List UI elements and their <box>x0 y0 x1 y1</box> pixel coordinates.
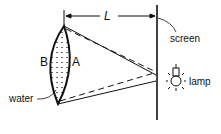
screen-label: screen <box>170 34 200 44</box>
lens-diagram: L B A water screen lamp <box>0 0 221 134</box>
lamp-label: lamp <box>189 77 211 87</box>
length-label: L <box>104 10 111 22</box>
water-lens <box>50 26 69 104</box>
lamp-icon <box>166 64 186 91</box>
water-label: water <box>9 94 33 104</box>
screen-leader <box>158 18 176 32</box>
surface-b-label: B <box>40 56 48 68</box>
surface-a-label: A <box>72 56 80 68</box>
